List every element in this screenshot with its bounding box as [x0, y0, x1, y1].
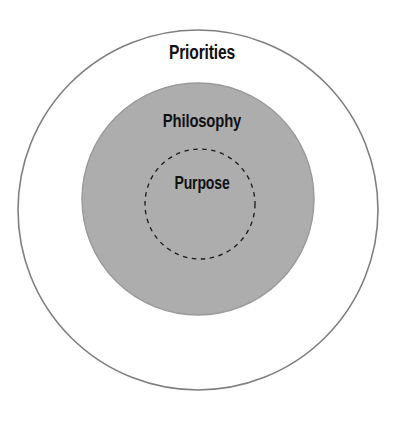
diagram-canvas — [0, 0, 404, 421]
ring-label-priorities: Priorities — [44, 42, 359, 62]
ring-label-philosophy: Philosophy — [44, 111, 359, 130]
concentric-circles-diagram: Priorities Philosophy Purpose — [0, 0, 404, 421]
ring-label-purpose: Purpose — [44, 174, 359, 192]
